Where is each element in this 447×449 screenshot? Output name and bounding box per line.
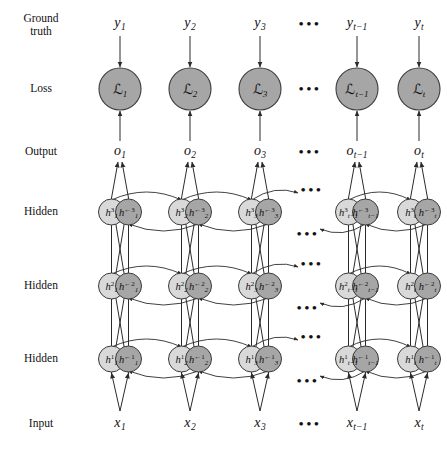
output-token-t-1: ot−1: [346, 143, 367, 160]
ellipsis-hidden-fwd-L1: •••: [301, 329, 324, 346]
ellipsis-hidden-fwd-L2: •••: [301, 256, 324, 273]
input-token-t: xt: [414, 415, 423, 432]
ellipsis-hidden-fwd-L3: •••: [301, 182, 324, 199]
ground-truth-token-t: yt: [414, 15, 423, 32]
ground-truth-token-t-1: yt−1: [347, 15, 367, 32]
row-label-hidden-3: Hidden: [6, 205, 76, 218]
input-token-t-1: xt−1: [347, 415, 367, 432]
output-token-3: o3: [254, 143, 266, 160]
node-layer: [99, 68, 441, 372]
row-label-output: Output: [6, 145, 76, 158]
ellipsis-hidden-bwd-L1: •••: [297, 373, 320, 390]
output-token-2: o2: [184, 143, 196, 160]
ground-truth-token-2: y2: [184, 15, 195, 32]
row-label-input: Input: [6, 417, 76, 430]
output-token-t: ot: [414, 143, 424, 160]
ellipsis-hidden-bwd-L2: •••: [297, 300, 320, 317]
ellipsis-hidden-bwd-L3: •••: [297, 226, 320, 243]
input-token-3: x3: [254, 415, 265, 432]
row-label-hidden-1: Hidden: [6, 352, 76, 365]
ground-truth-token-1: y1: [114, 15, 125, 32]
row-label-ground-truth: Ground truth: [6, 12, 76, 38]
row-label-loss: Loss: [6, 82, 76, 95]
input-token-1: x1: [114, 415, 125, 432]
ellipsis-loss: •••: [299, 81, 322, 98]
ellipsis-output: •••: [299, 144, 322, 161]
rnn-diagram: Ground truthLossOutputHiddenHiddenHidden…: [0, 0, 447, 449]
input-token-2: x2: [184, 415, 195, 432]
ground-truth-token-3: y3: [254, 15, 265, 32]
network-graph: [0, 0, 447, 449]
output-token-1: o1: [114, 143, 126, 160]
ellipsis-ground-truth: •••: [299, 16, 322, 33]
row-label-hidden-2: Hidden: [6, 279, 76, 292]
ellipsis-input: •••: [299, 416, 322, 433]
